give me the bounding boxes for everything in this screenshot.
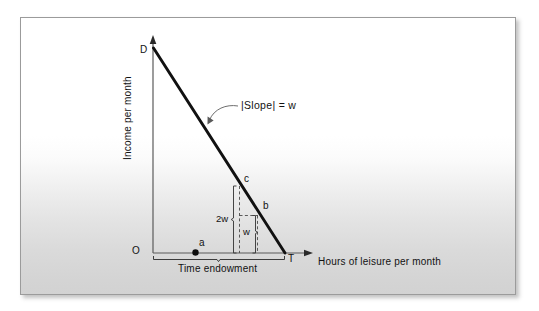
figure-frame: [20, 17, 516, 295]
rise-label-2w: 2w: [216, 214, 228, 224]
point-label-b: b: [263, 201, 269, 211]
rise-label-w: w: [243, 227, 250, 237]
point-label-c: c: [244, 174, 249, 184]
slope-annotation: |Slope| = w: [241, 100, 296, 111]
origin-label: O: [132, 246, 140, 256]
figure-root: Income per month Hours of leisure per mo…: [0, 0, 539, 311]
point-label-t: T: [288, 254, 294, 264]
point-label-a: a: [199, 238, 205, 248]
x-axis-title: Hours of leisure per month: [318, 257, 441, 267]
y-axis-title: Income per month: [123, 76, 133, 160]
time-endowment-label: Time endowment: [178, 264, 257, 274]
point-label-d: D: [140, 45, 147, 55]
